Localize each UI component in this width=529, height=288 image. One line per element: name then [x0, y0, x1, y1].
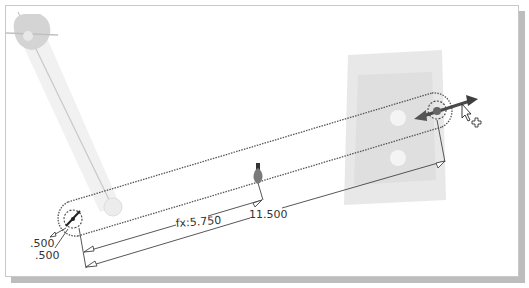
ghost-link-arm	[5, 12, 122, 216]
ghost-plate	[344, 50, 446, 205]
hole-center-glyph	[66, 211, 80, 226]
dimension-label-center[interactable]: fx:5.750	[175, 214, 221, 230]
move-plus-icon	[472, 118, 481, 127]
hole-dimension-2[interactable]: .500	[35, 249, 60, 262]
sketch-canvas[interactable]: .500 .500 fx:5.750 11.500	[0, 0, 529, 288]
grip-point-icon[interactable]	[254, 163, 263, 184]
arrow-pointer-icon	[462, 104, 471, 121]
dimension-label-length[interactable]: 11.500	[249, 208, 288, 221]
